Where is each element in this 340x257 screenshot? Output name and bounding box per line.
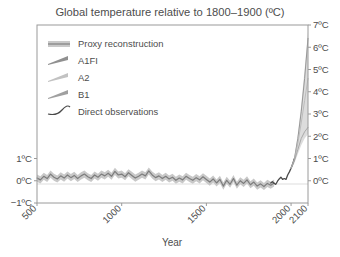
right-y-tick-label: 3ºC [313,108,329,119]
right-y-tick-label: 5ºC [313,64,329,75]
chart-title: Global temperature relative to 1800–1900… [55,6,284,18]
right-y-tick-label: 0ºC [313,175,329,186]
chart-figure: Global temperature relative to 1800–1900… [0,0,340,257]
left-y-tick-label: 0ºC [16,175,32,186]
right-y-tick-label: 7ºC [313,19,329,30]
right-y-tick-label: 4ºC [313,86,329,97]
legend-label: Direct observations [78,106,159,117]
left-y-tick-label: −1ºC [11,197,32,208]
temperature-chart-svg: Global temperature relative to 1800–1900… [0,0,340,257]
right-y-tick-label: 1ºC [313,153,329,164]
right-y-tick-label: 2ºC [313,131,329,142]
legend-label: A1FI [78,55,98,66]
x-axis-label: Year [162,237,183,248]
legend-label: Proxy reconstruction [78,38,163,49]
right-y-tick-label: 6ºC [313,42,329,53]
legend-label: A2 [78,72,89,83]
legend-label: B1 [78,89,89,100]
left-y-tick-label: 1ºC [16,153,32,164]
